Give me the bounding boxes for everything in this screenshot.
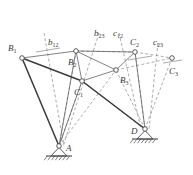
joint-node-B2 xyxy=(74,49,79,54)
ground-support-A-hatch xyxy=(48,156,51,160)
ground-support-D-hatch xyxy=(138,139,141,143)
tick-b12 xyxy=(36,48,60,52)
joint-node-C1 xyxy=(80,79,85,84)
joint-label-D: D xyxy=(131,127,138,136)
line-B2-C2 xyxy=(76,51,135,52)
ground-support-A-hatch xyxy=(66,156,69,160)
dash-C2-C3 xyxy=(135,52,172,58)
joint-node-D xyxy=(143,127,148,132)
ground-support-A-triangle xyxy=(51,148,67,157)
ground-support-A-hatch xyxy=(52,156,55,160)
tick-c12 xyxy=(128,56,152,60)
line-B3-C1 xyxy=(82,70,116,81)
dash-B3-C3 xyxy=(116,58,172,70)
joint-label-B2: B2 xyxy=(68,58,77,67)
joint-label-A: A xyxy=(66,144,72,153)
dash-D-C3 xyxy=(145,58,172,129)
solid-link-bars xyxy=(22,58,145,146)
bisector-c23 xyxy=(149,43,158,129)
ground-support-D-hatch xyxy=(141,139,144,143)
dashed-construction-lines xyxy=(22,51,172,146)
linkage-figure: B1B2B3C1C2C3ADb12b23c12c23 xyxy=(0,0,193,175)
ground-support-D-triangle xyxy=(137,131,153,140)
joint-nodes xyxy=(20,49,175,149)
joint-label-C2: C2 xyxy=(130,38,139,47)
ground-support-D-hatch xyxy=(134,139,137,143)
line-B3-C2 xyxy=(116,52,135,70)
construction-label-b23: b23 xyxy=(94,29,105,38)
ground-support-D-hatch xyxy=(149,139,152,143)
line-B2-B3 xyxy=(76,51,116,70)
line-D-C2 xyxy=(135,52,145,129)
construction-label-b12: b12 xyxy=(48,38,59,47)
joint-label-B1: B1 xyxy=(8,44,17,53)
joint-label-C1: C1 xyxy=(74,88,83,97)
joint-node-B3 xyxy=(114,68,119,73)
joint-label-B3: B3 xyxy=(120,76,129,85)
ground-support-D-hatch xyxy=(152,139,155,143)
ground-support-A-hatch xyxy=(59,156,62,160)
ground-support-A-hatch xyxy=(44,156,47,160)
joint-label-C3: C3 xyxy=(169,67,178,76)
joint-node-C3 xyxy=(170,56,175,61)
construction-label-c12: c12 xyxy=(113,29,123,38)
link-B1-A xyxy=(22,58,59,146)
linkage-svg xyxy=(0,0,193,175)
ground-support-A-hatch xyxy=(63,156,66,160)
ground-support-A-hatch xyxy=(55,156,58,160)
joint-node-A xyxy=(57,144,62,149)
joint-node-C2 xyxy=(133,50,138,55)
joint-node-B1 xyxy=(20,56,25,61)
dash-A-B3 xyxy=(59,70,116,146)
ground-support-D-hatch xyxy=(130,139,133,143)
ground-support-D-hatch xyxy=(145,139,148,143)
construction-label-c23: c23 xyxy=(153,38,163,47)
